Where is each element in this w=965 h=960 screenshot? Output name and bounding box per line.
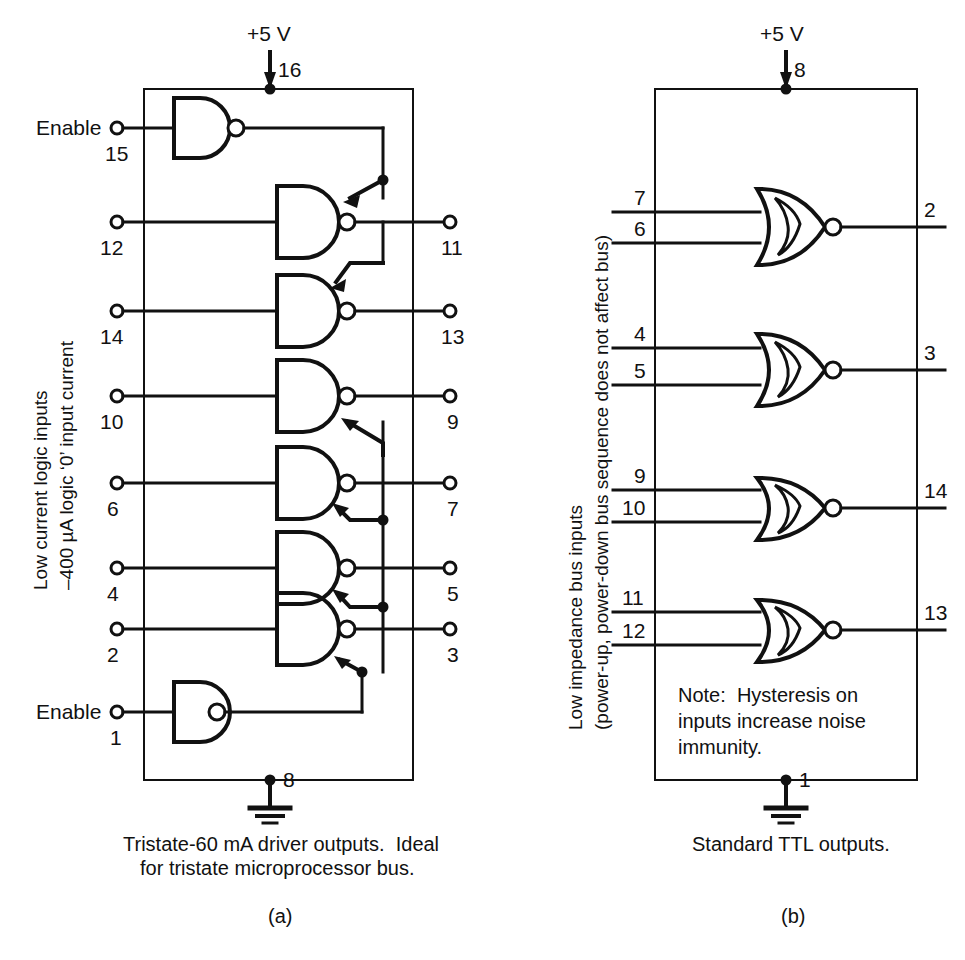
input-pin-top-b-2: 9 — [634, 464, 646, 489]
note-line1-b: Note: Hysteresis on — [678, 684, 858, 708]
input-pin-bottom-b-0: 6 — [634, 217, 646, 242]
output-pin-a-1: 13 — [441, 325, 464, 350]
caption-line2-a: for tristate microprocessor bus. — [140, 857, 415, 881]
side-label-line1-b: Low impedance bus inputs — [565, 505, 587, 730]
output-pin-a-4: 5 — [447, 582, 459, 607]
circuit-artwork — [0, 0, 965, 960]
output-pin-a-5: 3 — [447, 643, 459, 668]
output-pin-b-1: 3 — [924, 341, 936, 366]
enable-label-top-a: Enable — [36, 116, 101, 141]
input-pin-bottom-b-3: 12 — [622, 619, 645, 644]
input-pin-bottom-b-2: 10 — [622, 496, 645, 521]
side-label-line2-b: (power-up, power-down bus sequence does … — [591, 235, 613, 730]
input-pin-top-b-1: 4 — [634, 322, 646, 347]
output-pin-b-2: 14 — [924, 479, 947, 504]
supply-label-a: +5 V — [247, 22, 291, 47]
enable-pin-top-a: 15 — [105, 142, 128, 167]
input-pin-top-b-3: 11 — [622, 586, 644, 611]
caption-line1-a: Tristate-60 mA driver outputs. Ideal — [123, 833, 439, 857]
input-pin-a-3: 6 — [107, 497, 119, 522]
input-pin-top-b-0: 7 — [634, 186, 646, 211]
supply-pin-b: 8 — [794, 58, 806, 83]
diagram-canvas: +5 V 16 8 Enable 15 Enable 1 12 14 10 6 … — [0, 0, 965, 960]
figure-label-b: (b) — [781, 905, 805, 929]
input-pin-a-0: 12 — [100, 236, 123, 261]
input-pin-a-5: 2 — [107, 643, 119, 668]
side-label-line1-a: Low current logic inputs — [30, 390, 52, 590]
output-pin-a-3: 7 — [447, 497, 459, 522]
enable-label-bottom-a: Enable — [36, 700, 101, 725]
note-line2-b: inputs increase noise — [678, 710, 866, 734]
input-pin-bottom-b-1: 5 — [634, 359, 646, 384]
supply-label-b: +5 V — [760, 22, 804, 47]
note-line3-b: immunity. — [678, 736, 762, 760]
output-pin-a-2: 9 — [447, 410, 459, 435]
ground-pin-b: 1 — [799, 768, 811, 793]
supply-pin-a: 16 — [278, 58, 301, 83]
input-pin-a-4: 4 — [107, 582, 119, 607]
figure-label-a: (a) — [268, 905, 292, 929]
output-pin-b-3: 13 — [924, 601, 947, 626]
enable-pin-bottom-a: 1 — [110, 726, 122, 751]
input-pin-a-2: 10 — [100, 410, 123, 435]
output-pin-b-0: 2 — [924, 198, 936, 223]
caption-line1-b: Standard TTL outputs. — [692, 833, 890, 857]
input-pin-a-1: 14 — [100, 325, 123, 350]
side-label-line2-a: –400 µA logic ‘0’ input current — [56, 341, 78, 590]
output-pin-a-0: 11 — [441, 236, 463, 261]
ground-pin-a: 8 — [283, 768, 295, 793]
